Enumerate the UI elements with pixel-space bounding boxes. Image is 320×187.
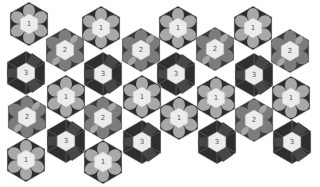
hexagon-tile-1: 1 [3, 137, 49, 183]
hexagon-tile-3: 3 [269, 119, 315, 165]
hexagon-tile-pattern: 1 1 1 [0, 0, 320, 187]
tile-number: 3 [269, 119, 315, 165]
hexagon-tile-1: 1 [80, 139, 126, 185]
hexagon-tile-3: 3 [194, 119, 240, 165]
tile-number: 1 [3, 137, 49, 183]
tile-number: 3 [194, 119, 240, 165]
tile-number: 1 [80, 139, 126, 185]
